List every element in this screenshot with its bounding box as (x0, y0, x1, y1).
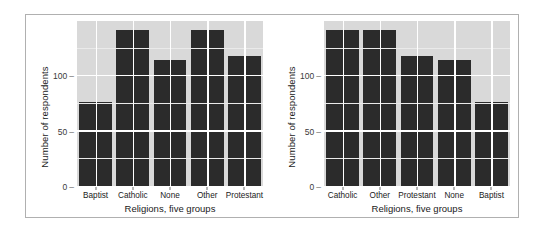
x-tick-label: Catholic (328, 191, 358, 200)
x-tick-label: Other (370, 191, 390, 200)
y-tick-label: 100– (300, 71, 321, 81)
gridline-vertical (454, 21, 455, 187)
figure-frame: Number of respondents 0–50–100– BaptistC… (25, 14, 519, 218)
y-tick-text: 50 (305, 127, 314, 137)
y-axis-ticks-left: 0–50–100– (48, 21, 74, 187)
gridline-vertical (380, 21, 381, 187)
x-tick-mark-icon (491, 187, 492, 190)
gridline-vertical (417, 21, 418, 187)
y-tick-mark-icon: – (69, 71, 74, 81)
y-tick-label: 0– (63, 182, 74, 192)
y-tick-label: 100– (53, 71, 74, 81)
x-tick-label: None (160, 191, 180, 200)
gridline-vertical (96, 21, 97, 187)
x-tick-mark-icon (342, 187, 343, 190)
y-tick-text: 0 (310, 182, 315, 192)
y-tick-label: 50– (305, 127, 321, 137)
y-tick-mark-icon: – (69, 182, 74, 192)
plot-area-left (77, 21, 263, 187)
x-tick-mark-icon (379, 187, 380, 190)
x-tick-mark-icon (244, 187, 245, 190)
y-axis-ticks-right: 0–50–100– (295, 21, 321, 187)
x-tick-label: Baptist (83, 191, 108, 200)
x-tick-label: Baptist (479, 191, 504, 200)
gridline-vertical (170, 21, 171, 187)
chart-panel-right: Number of respondents 0–50–100– Catholic… (273, 15, 520, 219)
y-tick-text: 100 (53, 71, 67, 81)
x-tick-mark-icon (170, 187, 171, 190)
y-tick-label: 50– (58, 127, 74, 137)
x-tick-label: Protestant (398, 191, 435, 200)
x-tick-label: Protestant (226, 191, 263, 200)
y-tick-label: 0– (310, 182, 321, 192)
plot-area-right (324, 21, 510, 187)
gridline-vertical (207, 21, 208, 187)
y-tick-text: 0 (63, 182, 68, 192)
x-tick-mark-icon (207, 187, 208, 190)
x-tick-mark-icon (95, 187, 96, 190)
y-tick-mark-icon: – (316, 127, 321, 137)
x-axis-title-right: Religions, five groups (324, 203, 510, 214)
gridline-vertical (343, 21, 344, 187)
gridline-vertical (133, 21, 134, 187)
x-axis-title-left: Religions, five groups (77, 203, 263, 214)
x-tick-label: Other (197, 191, 217, 200)
y-tick-mark-icon: – (316, 182, 321, 192)
x-tick-label: None (444, 191, 464, 200)
y-tick-mark-icon: – (69, 127, 74, 137)
y-tick-text: 100 (300, 71, 314, 81)
gridline-vertical (491, 21, 492, 187)
x-tick-label: Catholic (118, 191, 148, 200)
x-tick-mark-icon (454, 187, 455, 190)
y-tick-text: 50 (58, 127, 67, 137)
y-tick-mark-icon: – (316, 71, 321, 81)
chart-panel-left: Number of respondents 0–50–100– BaptistC… (26, 15, 273, 219)
gridline-vertical (244, 21, 245, 187)
x-tick-mark-icon (417, 187, 418, 190)
x-tick-mark-icon (132, 187, 133, 190)
